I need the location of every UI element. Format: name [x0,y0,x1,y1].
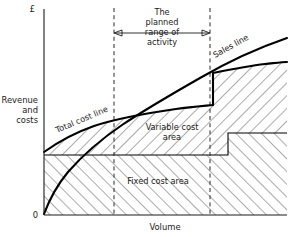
y-axis-label-line-2: and [22,105,38,115]
planned-range-annotation-line-3: range of [145,27,180,37]
variable-cost-area-label-line-1: Variable cost [146,122,200,132]
origin-label: 0 [33,210,38,220]
planned-range-annotation-line-4: activity [147,37,177,47]
chart-canvas: £ 0 Revenue and costs Volume The planned… [0,0,292,237]
break-even-chart: £ 0 Revenue and costs Volume The planned… [0,0,292,237]
y-axis-label-line-1: Revenue [2,95,38,105]
y-axis-label-line-3: costs [16,115,38,125]
variable-cost-area-label-line-2: area [163,132,181,142]
planned-range-annotation-line-2: planned [145,17,178,27]
fixed-cost-area-label: Fixed cost area [127,176,189,186]
y-axis-currency-label: £ [30,4,35,14]
planned-range-annotation-line-1: The [153,7,169,17]
x-axis-label: Volume [149,222,180,232]
